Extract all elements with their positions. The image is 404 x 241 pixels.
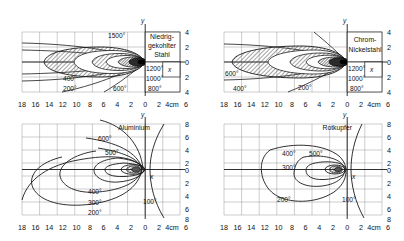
isotherm-label: 200° <box>63 85 77 92</box>
x-tick-labels: 18 16 14 12 10 8 6 4 2 0 2 4cm 6 <box>220 223 390 232</box>
panel-rotkupfer: Rotkupfer 400° 500° 300° 200° 100° y x 8… <box>202 112 404 241</box>
svg-text:6: 6 <box>102 100 106 109</box>
svg-text:10: 10 <box>274 223 282 232</box>
x-axis-label: x <box>351 173 356 180</box>
svg-text:0: 0 <box>387 166 391 175</box>
material-label-line-2: gekohlter <box>148 42 177 50</box>
svg-text:16: 16 <box>234 100 242 109</box>
x-tick-labels: 18 16 14 12 10 8 6 4 2 0 2 4cm 6 <box>220 100 390 109</box>
svg-text:4: 4 <box>317 100 321 109</box>
isotherm-label: 1200° <box>348 65 366 72</box>
svg-text:10: 10 <box>72 223 80 232</box>
x-tick-labels: 18 16 14 12 10 8 6 4 2 0 2 4cm 6 <box>18 100 188 109</box>
isotherm-label: 600° <box>98 135 112 142</box>
y-axis-label: y <box>342 17 347 25</box>
figure-sheet: Niedrig- gekohlter Stahl 1500° 1200° 100… <box>0 0 404 241</box>
svg-text:14: 14 <box>45 223 53 232</box>
svg-text:8: 8 <box>88 223 92 232</box>
material-label-line-1: Niedrig- <box>150 33 174 41</box>
svg-text:0: 0 <box>143 223 147 232</box>
svg-text:6: 6 <box>386 223 390 232</box>
svg-text:2: 2 <box>387 179 391 188</box>
y-tick-labels: 4 2 0 2 4 <box>185 28 189 97</box>
svg-text:14: 14 <box>247 100 255 109</box>
svg-text:0: 0 <box>143 100 147 109</box>
svg-text:4: 4 <box>387 146 391 155</box>
y-axis-label: y <box>140 112 145 119</box>
svg-text:10: 10 <box>274 100 282 109</box>
x-axis-label: x <box>167 66 172 73</box>
material-legend-box <box>145 32 180 92</box>
svg-text:14: 14 <box>247 223 255 232</box>
x-axis-label: x <box>149 173 154 180</box>
svg-text:2: 2 <box>359 100 363 109</box>
svg-text:6: 6 <box>184 223 188 232</box>
svg-text:6: 6 <box>304 100 308 109</box>
svg-text:6: 6 <box>185 205 189 214</box>
y-tick-labels: 8 6 4 2 0 2 4 6 8 <box>185 120 189 224</box>
svg-text:2: 2 <box>185 179 189 188</box>
svg-text:2: 2 <box>185 43 189 52</box>
isotherm-core <box>127 166 142 173</box>
svg-text:4: 4 <box>185 146 189 155</box>
svg-text:2: 2 <box>157 223 161 232</box>
isotherm-teardrops <box>44 47 147 77</box>
isotherm-label: 400° <box>88 188 102 195</box>
svg-text:4: 4 <box>185 192 189 201</box>
svg-text:2: 2 <box>157 100 161 109</box>
isotherm-label: 200° <box>88 209 102 216</box>
isotherm-label: 200° <box>298 84 312 91</box>
svg-text:8: 8 <box>88 100 92 109</box>
isotherm-label: 600° <box>225 70 239 77</box>
svg-text:12: 12 <box>59 223 67 232</box>
svg-text:2: 2 <box>387 43 391 52</box>
svg-text:4: 4 <box>115 100 119 109</box>
x-axis-label: x <box>369 66 374 73</box>
isotherm-label: 600° <box>113 85 127 92</box>
svg-text:6: 6 <box>386 100 390 109</box>
isotherm-label: 100° <box>143 198 157 205</box>
svg-text:4: 4 <box>115 223 119 232</box>
y-tick-labels: 4 2 0 2 4 <box>387 28 391 97</box>
svg-text:6: 6 <box>387 133 391 142</box>
isotherm-label: 500° <box>105 149 119 156</box>
svg-text:4cm: 4cm <box>165 100 179 109</box>
isotherm-label: 500° <box>309 150 323 157</box>
panel-chrom-nickelstahl: Chrom- Nickelstahl 1200° 1000° 800° 600°… <box>202 14 404 114</box>
svg-text:2: 2 <box>129 100 133 109</box>
y-axis-label: y <box>140 17 145 25</box>
svg-text:18: 18 <box>18 100 26 109</box>
svg-text:4: 4 <box>387 28 391 37</box>
svg-text:0: 0 <box>345 100 349 109</box>
panel-aluminium: Aluminium 600° 500° 400° 300° 200° 100° … <box>0 112 202 241</box>
svg-text:0: 0 <box>185 58 189 67</box>
svg-text:2: 2 <box>331 100 335 109</box>
axis-lines <box>224 117 387 219</box>
svg-text:2: 2 <box>185 73 189 82</box>
svg-text:18: 18 <box>220 100 228 109</box>
isotherm-label: 1000° <box>146 75 164 82</box>
svg-text:4cm: 4cm <box>165 223 179 232</box>
isotherm-label: 1000° <box>348 75 366 82</box>
svg-text:8: 8 <box>185 120 189 129</box>
material-label-line-2: Nickelstahl <box>349 46 382 53</box>
svg-text:6: 6 <box>185 133 189 142</box>
svg-text:12: 12 <box>59 100 67 109</box>
isotherm-label: 200° <box>277 196 291 203</box>
svg-text:12: 12 <box>261 100 269 109</box>
svg-text:2: 2 <box>359 223 363 232</box>
material-label: Aluminium <box>118 124 150 131</box>
axis-lines <box>22 117 185 219</box>
svg-text:2: 2 <box>387 73 391 82</box>
svg-text:4: 4 <box>387 88 391 97</box>
svg-text:6: 6 <box>184 100 188 109</box>
isotherm-teardrops <box>232 46 349 78</box>
isotherm-label: 1500° <box>108 32 126 39</box>
svg-text:12: 12 <box>261 223 269 232</box>
isotherm-label: 1200° <box>146 65 164 72</box>
svg-text:0: 0 <box>387 58 391 67</box>
svg-text:10: 10 <box>72 100 80 109</box>
material-label: Rotkupfer <box>323 124 353 132</box>
svg-text:6: 6 <box>102 223 106 232</box>
svg-text:16: 16 <box>32 100 40 109</box>
